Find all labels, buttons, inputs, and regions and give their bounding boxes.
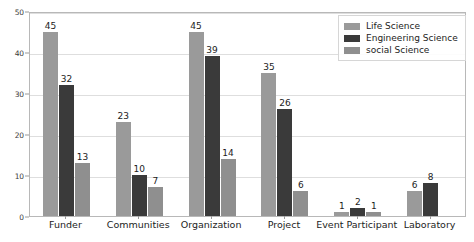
x-axis-tick-label: Laboratory [404,219,456,230]
bar-group: 453914 [189,13,236,216]
bar-value-label: 1 [339,201,345,211]
bar: 6 [407,191,422,216]
legend-swatch [344,23,360,30]
legend-item: Life Science [344,20,458,32]
x-axis-tick-label: Organization [181,219,242,230]
bar: 10 [132,175,147,216]
bar-value-label: 13 [77,152,88,162]
bar-value-label: 8 [428,172,434,182]
bar: 14 [221,159,236,216]
bar-value-label: 6 [298,180,304,190]
bar-value-label: 35 [263,62,274,72]
bar-value-label: 1 [371,201,377,211]
bar-group: 23107 [116,13,163,216]
x-axis-tick-label: Project [268,219,301,230]
bar-value-label: 10 [134,164,145,174]
x-axis-tick-label: Communities [107,219,170,230]
y-axis-tick-label: 50 [15,8,24,17]
legend-swatch [344,35,360,42]
x-axis-tick-mark [138,216,139,219]
bar-value-label: 32 [61,74,72,84]
bar: 26 [277,109,292,216]
legend-label: social Science [366,45,429,55]
y-axis-tick-label: 20 [15,131,24,140]
legend: Life ScienceEngineering Sciencesocial Sc… [338,15,466,61]
y-axis-tick-label: 10 [15,172,24,181]
legend-item: Engineering Science [344,32,458,44]
legend-swatch [344,47,360,54]
bar-group: 35266 [261,13,308,216]
x-axis-tick-mark [357,216,358,219]
bar: 1 [334,212,349,216]
bar-value-label: 39 [206,45,217,55]
bar: 23 [116,122,131,216]
bar: 35 [261,73,276,217]
bar-value-label: 45 [45,21,56,31]
bar-value-label: 45 [190,21,201,31]
bar: 13 [75,163,90,216]
bar-value-label: 2 [355,197,361,207]
bar: 45 [43,32,58,217]
bar: 6 [293,191,308,216]
x-axis: FunderCommunitiesOrganizationProjectEven… [29,219,466,239]
bar-group: 453213 [43,13,90,216]
bar: 1 [366,212,381,216]
x-axis-tick-label: Event Participant [316,219,397,230]
bar: 32 [59,85,74,216]
bar: 8 [423,183,438,216]
legend-item: social Science [344,44,458,56]
grouped-bar-chart: 01020304050 453213231074539143526612168 … [0,0,474,242]
bar: 45 [189,32,204,217]
y-axis: 01020304050 [0,12,29,217]
bar: 2 [350,208,365,216]
x-axis-tick-mark [430,216,431,219]
legend-label: Engineering Science [366,33,458,43]
y-axis-tick-label: 30 [15,90,24,99]
x-axis-tick-mark [65,216,66,219]
bar-value-label: 14 [222,148,233,158]
y-axis-tick-label: 40 [15,49,24,58]
x-axis-tick-mark [284,216,285,219]
legend-label: Life Science [366,21,420,31]
y-axis-tick-label: 0 [19,213,24,222]
bar-value-label: 6 [412,180,418,190]
bar: 39 [205,56,220,216]
bar: 7 [148,187,163,216]
bar-value-label: 23 [118,111,129,121]
bar-value-label: 26 [279,98,290,108]
x-axis-tick-label: Funder [49,219,82,230]
x-axis-tick-mark [211,216,212,219]
bar-value-label: 7 [152,176,158,186]
